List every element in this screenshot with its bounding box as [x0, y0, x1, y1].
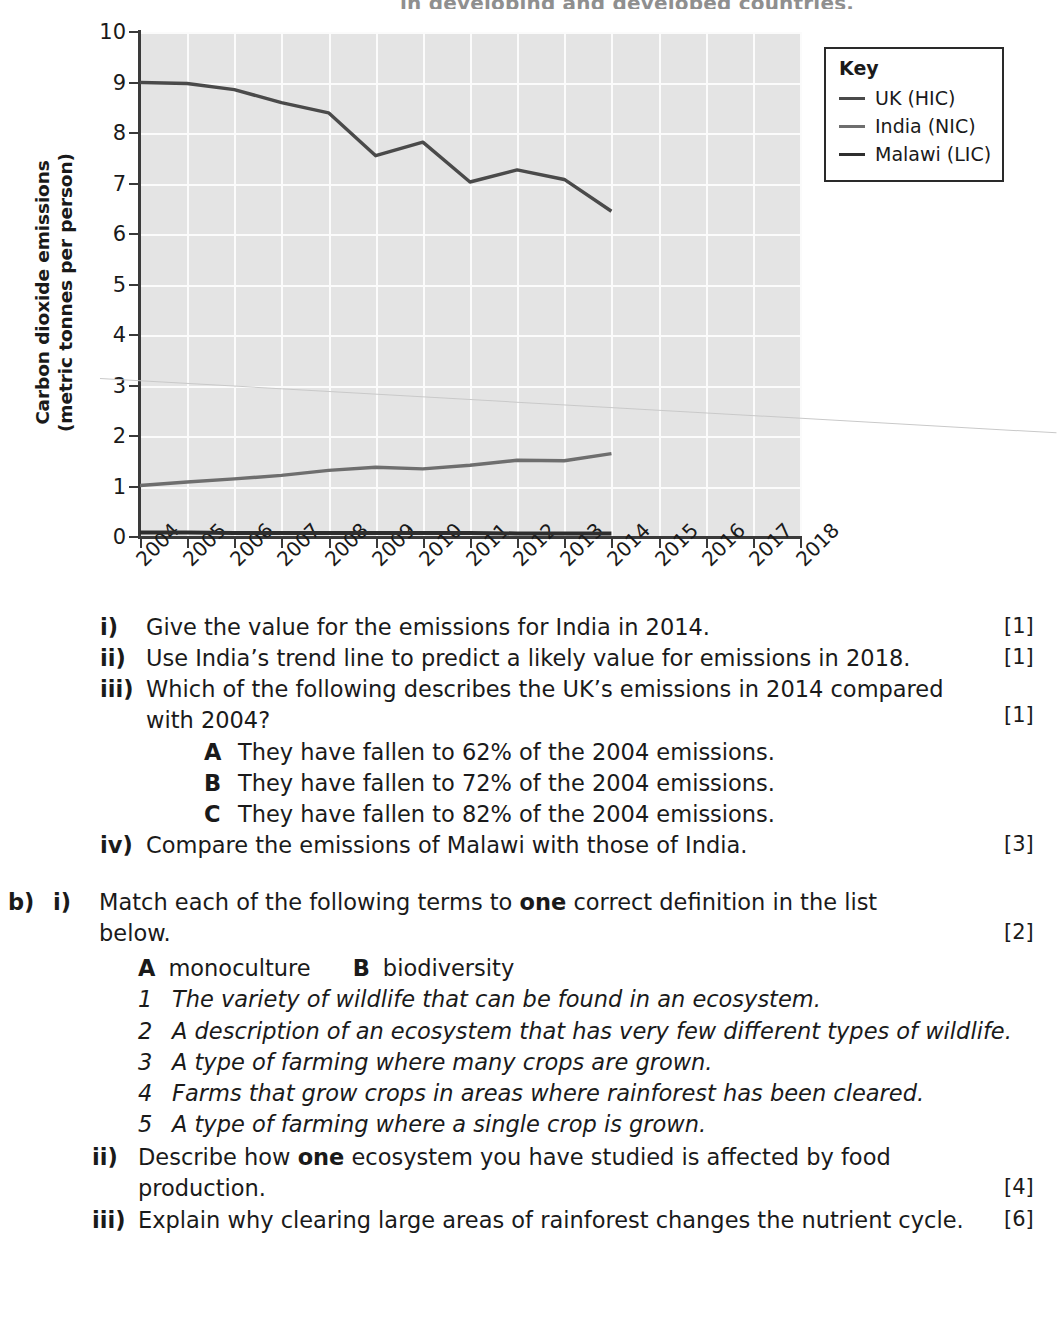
question-a-i-marks: [1]: [1004, 612, 1044, 641]
option-b-text: They have fallen to 72% of the 2004 emis…: [238, 768, 775, 799]
question-b-ii-marks: [4]: [1004, 1173, 1044, 1202]
question-a-iii-text: Which of the following describes the UK’…: [146, 674, 1058, 736]
question-a-iii-marks: [1]: [1004, 701, 1044, 730]
y-tick-mark: [129, 31, 140, 33]
series-line-uk: [140, 83, 611, 212]
y-tick-label: 10: [99, 22, 126, 43]
term-b-letter: B: [353, 953, 370, 984]
option-b[interactable]: B They have fallen to 72% of the 2004 em…: [204, 768, 1058, 799]
question-a-i: i) Give the value for the emissions for …: [100, 612, 1058, 643]
series-line-malawi: [140, 532, 611, 533]
y-tick-mark: [129, 385, 140, 387]
question-a-iv-text: Compare the emissions of Malawi with tho…: [146, 830, 1058, 861]
definition-2-text: A description of an ecosystem that has v…: [172, 1016, 1012, 1047]
legend-line-swatch: [839, 125, 865, 128]
definition-5-number: 5: [138, 1109, 172, 1140]
option-c-text: They have fallen to 82% of the 2004 emis…: [238, 799, 775, 830]
question-b-ii-text: Describe how one ecosystem you have stud…: [138, 1142, 1058, 1204]
term-a-word[interactable]: monoculture: [168, 953, 310, 984]
y-tick-label: 6: [113, 224, 126, 245]
terms-row: A monoculture B biodiversity: [138, 953, 1058, 984]
y-axis-ticks: 012345678910: [92, 0, 140, 570]
question-b-i-line1: Match each of the following terms to one…: [99, 887, 1050, 918]
question-b-ii-pre: Describe how: [138, 1144, 298, 1170]
question-a-iv: iv) Compare the emissions of Malawi with…: [100, 830, 1058, 861]
legend-item-label: Malawi (LIC): [875, 143, 991, 165]
question-a-iii-line1: Which of the following describes the UK’…: [146, 674, 1050, 705]
legend-line-swatch: [839, 97, 865, 100]
legend-item-label: UK (HIC): [875, 87, 955, 109]
term-a-letter: A: [138, 953, 155, 984]
question-b-ii-number: ii): [92, 1142, 138, 1173]
definition-4-number: 4: [138, 1078, 172, 1109]
y-tick-label: 9: [113, 72, 126, 93]
question-a-iii-options: A They have fallen to 62% of the 2004 em…: [204, 737, 1058, 830]
question-a-iii: iii) Which of the following describes th…: [100, 674, 1058, 736]
question-a-ii-number: ii): [100, 643, 146, 674]
option-c[interactable]: C They have fallen to 82% of the 2004 em…: [204, 799, 1058, 830]
question-b-i-number: i): [53, 887, 99, 918]
question-b-i-post: correct definition in the list: [566, 889, 877, 915]
definition-1-text: The variety of wildlife that can be foun…: [172, 984, 821, 1015]
y-tick-label: 4: [113, 325, 126, 346]
question-b-i: b) i) Match each of the following terms …: [0, 887, 1058, 949]
option-b-letter: B: [204, 768, 238, 799]
y-tick-mark: [129, 334, 140, 336]
y-tick-mark: [129, 183, 140, 185]
y-axis-title-line2: (metric tonnes per person): [54, 154, 77, 433]
question-a-ii: ii) Use India’s trend line to predict a …: [100, 643, 1058, 674]
question-b-i-emphasis: one: [520, 889, 567, 915]
y-tick-label: 0: [113, 527, 126, 548]
question-b-iii: iii) Explain why clearing large areas of…: [92, 1205, 1058, 1236]
definition-3[interactable]: 3 A type of farming where many crops are…: [138, 1047, 1058, 1078]
y-tick-label: 8: [113, 123, 126, 144]
legend-title: Key: [839, 57, 1002, 79]
question-b-ii: ii) Describe how one ecosystem you have …: [92, 1142, 1058, 1204]
question-b-i-pre: Match each of the following terms to: [99, 889, 520, 915]
option-a[interactable]: A They have fallen to 62% of the 2004 em…: [204, 737, 1058, 768]
definitions-list: 1 The variety of wildlife that can be fo…: [138, 984, 1058, 1140]
question-a-iv-marks: [3]: [1004, 830, 1044, 859]
y-axis-title: Carbon dioxide emissions (metric tonnes …: [31, 128, 77, 458]
y-tick-mark: [129, 486, 140, 488]
question-b-iii-number: iii): [92, 1205, 138, 1236]
question-b-iii-text: Explain why clearing large areas of rain…: [138, 1205, 1058, 1236]
question-b-iii-marks: [6]: [1004, 1205, 1044, 1234]
question-b-i-line2: below.: [99, 918, 1050, 949]
legend-item-india: India (NIC): [839, 112, 1002, 140]
question-b-ii-emphasis: one: [298, 1144, 345, 1170]
definition-1[interactable]: 1 The variety of wildlife that can be fo…: [138, 984, 1058, 1015]
definition-1-number: 1: [138, 984, 172, 1015]
co2-emissions-line-chart: Carbon dioxide emissions (metric tonnes …: [0, 0, 1058, 615]
legend-item-malawi: Malawi (LIC): [839, 140, 1002, 168]
y-tick-mark: [129, 233, 140, 235]
legend-item-label: India (NIC): [875, 115, 976, 137]
series-line-india: [140, 454, 611, 486]
option-a-letter: A: [204, 737, 238, 768]
y-tick-label: 3: [113, 375, 126, 396]
term-b-word[interactable]: biodiversity: [383, 953, 514, 984]
part-b-questions: b) i) Match each of the following terms …: [0, 887, 1058, 1236]
question-a-iv-number: iv): [100, 830, 146, 861]
definition-5[interactable]: 5 A type of farming where a single crop …: [138, 1109, 1058, 1140]
question-b-i-marks: [2]: [1004, 918, 1044, 947]
y-tick-mark: [129, 284, 140, 286]
y-tick-mark: [129, 132, 140, 134]
definition-4[interactable]: 4 Farms that grow crops in areas where r…: [138, 1078, 1058, 1109]
terms-list: A monoculture B biodiversity: [138, 953, 1058, 984]
y-tick-label: 2: [113, 426, 126, 447]
definition-3-text: A type of farming where many crops are g…: [172, 1047, 713, 1078]
question-b-ii-post: ecosystem you have studied is affected b…: [344, 1144, 890, 1170]
definition-3-number: 3: [138, 1047, 172, 1078]
part-b-label: b): [8, 887, 53, 918]
option-c-letter: C: [204, 799, 238, 830]
y-tick-mark: [129, 536, 140, 538]
y-tick-mark: [129, 82, 140, 84]
definition-2[interactable]: 2 A description of an ecosystem that has…: [138, 1016, 1058, 1047]
question-a-iii-line2: with 2004?: [146, 705, 1050, 736]
y-tick-label: 7: [113, 173, 126, 194]
legend-item-uk: UK (HIC): [839, 84, 1002, 112]
question-a-i-text: Give the value for the emissions for Ind…: [146, 612, 1058, 643]
question-a-iii-number: iii): [100, 674, 146, 705]
question-b-ii-line2: production.: [138, 1173, 1050, 1204]
